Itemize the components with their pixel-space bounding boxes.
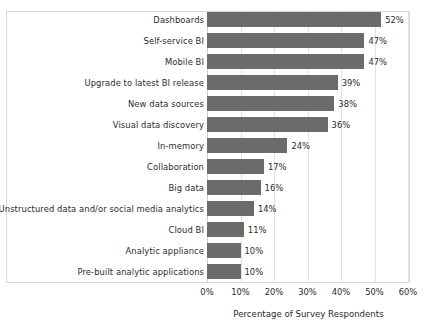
bar-value-label: 39% xyxy=(342,78,361,88)
bar-container: 38% xyxy=(207,96,357,111)
x-tick-label: 60% xyxy=(399,287,418,298)
bar xyxy=(207,159,264,174)
category-label: New data sources xyxy=(128,99,204,109)
x-axis-title: Percentage of Survey Respondents xyxy=(207,309,410,320)
bar xyxy=(207,180,261,195)
category-label: Cloud BI xyxy=(169,225,204,235)
category-label: Collaboration xyxy=(147,162,204,172)
bar-row: Visual data discovery36% xyxy=(0,117,427,132)
bar-container: 10% xyxy=(207,264,263,279)
category-label: Upgrade to latest BI release xyxy=(84,78,204,88)
bar-value-label: 47% xyxy=(368,57,387,67)
bar-value-label: 10% xyxy=(245,246,264,256)
x-tick-label: 20% xyxy=(265,287,284,298)
category-label: Big data xyxy=(168,183,204,193)
bar-row: Upgrade to latest BI release39% xyxy=(0,75,427,90)
bar xyxy=(207,264,241,279)
bar-value-label: 36% xyxy=(332,120,351,130)
bar xyxy=(207,138,287,153)
bar xyxy=(207,12,381,27)
bar-value-label: 10% xyxy=(245,267,264,277)
bar-container: 36% xyxy=(207,117,350,132)
bar xyxy=(207,222,244,237)
bar-container: 17% xyxy=(207,159,287,174)
bar-container: 39% xyxy=(207,75,360,90)
bar-container: 16% xyxy=(207,180,283,195)
bar-value-label: 17% xyxy=(268,162,287,172)
category-label: Self-service BI xyxy=(144,36,204,46)
bar-row: New data sources38% xyxy=(0,96,427,111)
bar-container: 14% xyxy=(207,201,277,216)
category-label: Dashboards xyxy=(153,15,204,25)
bar-container: 11% xyxy=(207,222,266,237)
bar-value-label: 11% xyxy=(248,225,267,235)
bar-row: Collaboration17% xyxy=(0,159,427,174)
bar xyxy=(207,96,334,111)
category-label: Analytic appliance xyxy=(126,246,204,256)
bar xyxy=(207,75,338,90)
bar-container: 24% xyxy=(207,138,310,153)
category-label: Visual data discovery xyxy=(113,120,204,130)
bar-row: Cloud BI11% xyxy=(0,222,427,237)
bar-row: Pre-built analytic applications10% xyxy=(0,264,427,279)
bar-row: Unstructured data and/or social media an… xyxy=(0,201,427,216)
bar-value-label: 38% xyxy=(338,99,357,109)
bar-rows: Dashboards52%Self-service BI47%Mobile BI… xyxy=(0,0,427,283)
bar-container: 52% xyxy=(207,12,404,27)
bar-row: In-memory24% xyxy=(0,138,427,153)
bar-value-label: 24% xyxy=(291,141,310,151)
x-axis-tick-labels: 0%10%20%30%40%50%60% xyxy=(0,287,427,301)
category-label: In-memory xyxy=(157,141,204,151)
bar-container: 10% xyxy=(207,243,263,258)
bar-value-label: 52% xyxy=(385,15,404,25)
category-label: Pre-built analytic applications xyxy=(78,267,204,277)
x-tick-label: 30% xyxy=(298,287,317,298)
bar-container: 47% xyxy=(207,33,387,48)
bar-value-label: 16% xyxy=(265,183,284,193)
bar-chart: Dashboards52%Self-service BI47%Mobile BI… xyxy=(0,0,427,329)
bar-row: Mobile BI47% xyxy=(0,54,427,69)
bar-row: Self-service BI47% xyxy=(0,33,427,48)
bar xyxy=(207,54,364,69)
bar-row: Big data16% xyxy=(0,180,427,195)
x-tick-label: 10% xyxy=(231,287,250,298)
bar-row: Dashboards52% xyxy=(0,12,427,27)
bar-value-label: 47% xyxy=(368,36,387,46)
category-label: Mobile BI xyxy=(165,57,204,67)
x-tick-label: 40% xyxy=(332,287,351,298)
bar xyxy=(207,33,364,48)
bar xyxy=(207,201,254,216)
x-tick-label: 0% xyxy=(200,287,213,298)
bar-container: 47% xyxy=(207,54,387,69)
bar-row: Analytic appliance10% xyxy=(0,243,427,258)
bar-value-label: 14% xyxy=(258,204,277,214)
category-label: Unstructured data and/or social media an… xyxy=(0,204,204,214)
bar xyxy=(207,117,328,132)
bar xyxy=(207,243,241,258)
x-tick-label: 50% xyxy=(365,287,384,298)
